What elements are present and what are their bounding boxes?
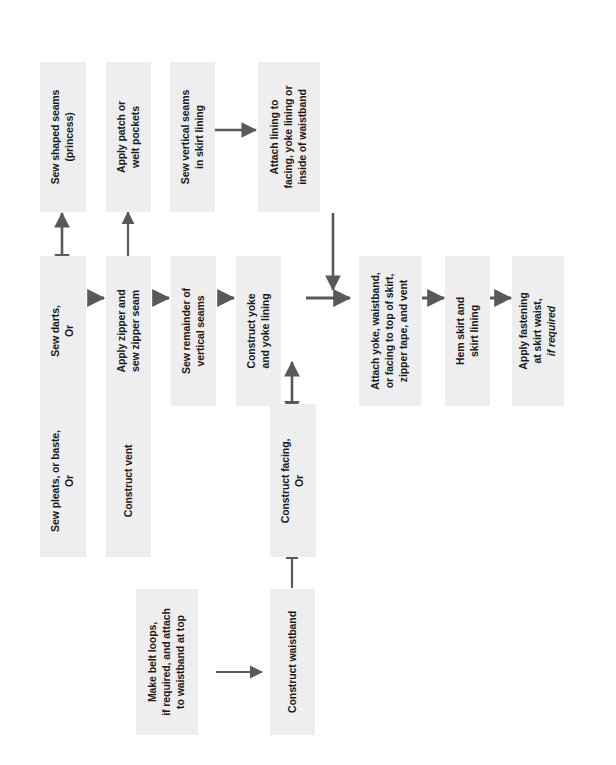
- node-label: Construct waistband: [286, 611, 300, 713]
- node-label: Construct vent: [122, 444, 136, 517]
- node-label: Apply patch orwelt pockets: [115, 101, 143, 173]
- node-construct-yoke[interactable]: Construct yokeand yoke lining: [236, 256, 281, 406]
- node-label: Apply fasteningat skirt waist,if require…: [517, 292, 559, 369]
- node-label: Sew vertical seamsin skirt lining: [179, 90, 207, 185]
- node-apply-fastening[interactable]: Apply fasteningat skirt waist,if require…: [512, 256, 564, 406]
- node-attach-lining[interactable]: Attach lining tofacing, yoke lining orin…: [258, 62, 320, 212]
- node-label: Attach lining tofacing, yoke lining orin…: [268, 86, 310, 189]
- node-label: Sew shaped seams(princess): [49, 90, 77, 185]
- node-sew-vertical-seams-lining[interactable]: Sew vertical seamsin skirt lining: [170, 62, 215, 212]
- node-label: Sew darts,Or: [49, 305, 77, 357]
- node-label: Make belt loops,if required, and attacht…: [146, 608, 188, 715]
- node-sew-remainder-seams[interactable]: Sew remainder ofvertical seams: [171, 256, 216, 406]
- node-label: Attach yoke, waistband,or facing to top …: [369, 272, 411, 389]
- node-label: Hem skirt andskirt lining: [454, 297, 482, 365]
- flowchart-canvas: Sew shaped seams(princess) Apply patch o…: [0, 0, 616, 765]
- node-apply-patch-pockets[interactable]: Apply patch orwelt pockets: [106, 62, 151, 212]
- node-sew-shaped-seams[interactable]: Sew shaped seams(princess): [40, 62, 86, 212]
- node-hem-skirt[interactable]: Hem skirt andskirt lining: [445, 256, 490, 406]
- node-make-belt-loops[interactable]: Make belt loops,if required, and attacht…: [136, 589, 198, 735]
- node-sew-darts[interactable]: Sew darts,Or: [40, 256, 86, 406]
- node-sew-pleats[interactable]: Sew pleats, or baste,Or: [40, 404, 86, 557]
- node-apply-zipper[interactable]: Apply zipper andsew zipper seam: [106, 256, 151, 406]
- node-label: Sew pleats, or baste,Or: [49, 430, 77, 532]
- node-construct-vent[interactable]: Construct vent: [106, 404, 151, 557]
- node-label: Construct facing,Or: [279, 438, 307, 523]
- node-attach-yoke-waistband[interactable]: Attach yoke, waistband,or facing to top …: [359, 256, 421, 406]
- node-label: Sew remainder ofvertical seams: [180, 288, 208, 374]
- node-construct-waistband[interactable]: Construct waistband: [270, 589, 315, 735]
- node-label: Apply zipper andsew zipper seam: [115, 290, 143, 373]
- node-label: Construct yokeand yoke lining: [245, 293, 273, 368]
- node-construct-facing[interactable]: Construct facing,Or: [270, 404, 316, 557]
